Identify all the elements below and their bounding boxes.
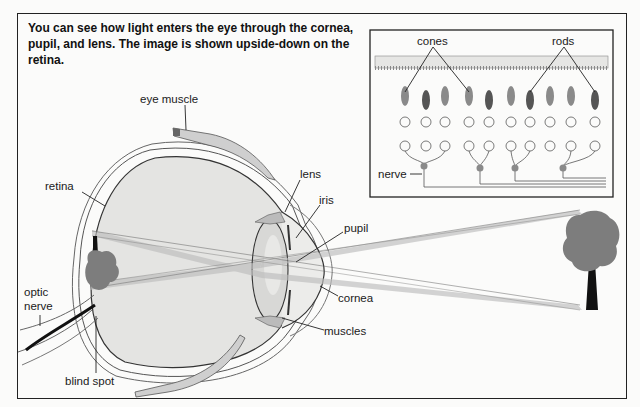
label-cornea: cornea (338, 292, 374, 304)
label-eye-muscle: eye muscle (140, 93, 198, 105)
label-rods: rods (552, 35, 575, 47)
label-blind-spot: blind spot (65, 375, 115, 387)
eye-diagram: cones rods nerve eye muscle retina lens … (0, 0, 640, 407)
label-optic-line1: optic (24, 286, 49, 298)
label-nerve: nerve (378, 168, 407, 180)
label-muscles: muscles (324, 325, 366, 337)
label-iris: iris (319, 194, 334, 206)
label-optic-line2: nerve (24, 300, 53, 312)
label-lens: lens (300, 168, 321, 180)
label-cones: cones (417, 35, 448, 47)
label-retina: retina (45, 180, 74, 192)
label-pupil: pupil (344, 222, 368, 234)
retina-inset: cones rods nerve (370, 30, 613, 197)
pigment-layer (375, 56, 608, 68)
tree (563, 211, 620, 310)
